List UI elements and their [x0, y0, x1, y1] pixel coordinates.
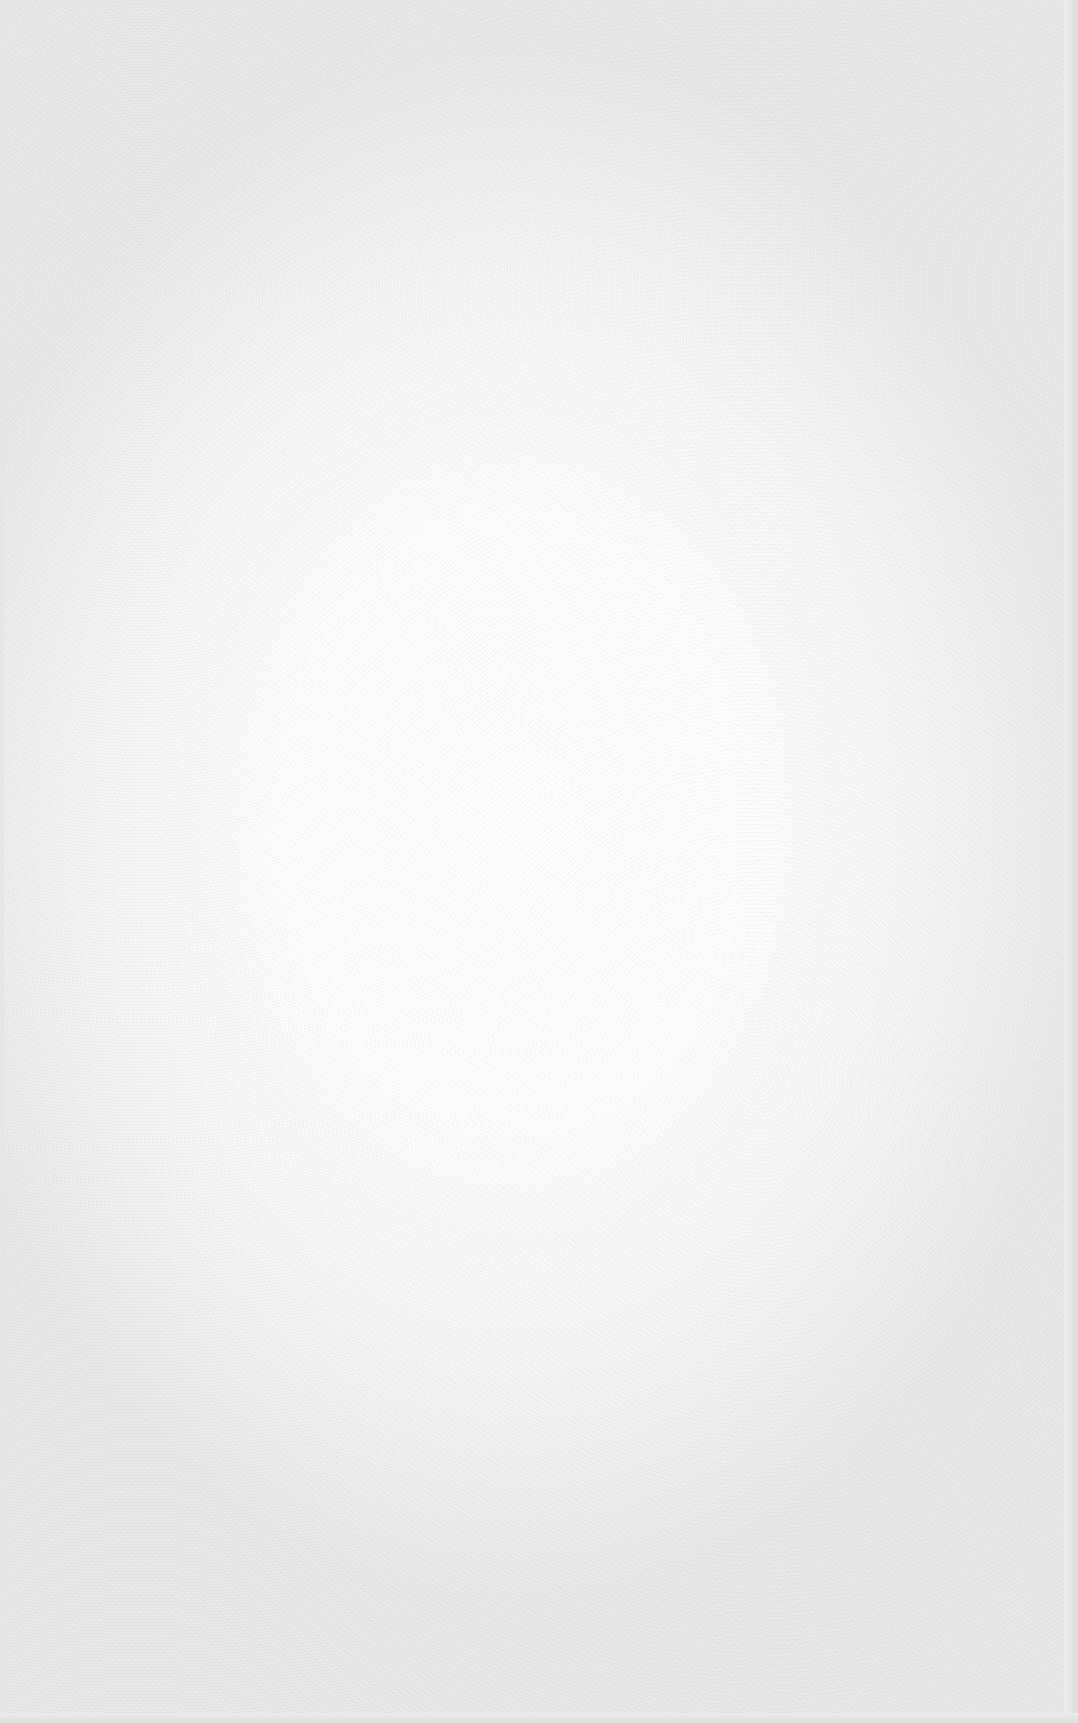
blank-paper-sheet	[4, 2, 1066, 1714]
right-edge-shadow	[1064, 0, 1078, 1723]
bottom-edge-shadow	[0, 1713, 1078, 1723]
paper-texture	[4, 2, 1066, 1714]
